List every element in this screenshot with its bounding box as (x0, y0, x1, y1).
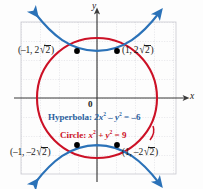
circle-mid: + y (96, 130, 110, 140)
hyperbola-lhs-a: 2x (94, 112, 103, 122)
hyperbola-equation: Hyperbola: 2x2 – y2 = –6 (48, 113, 140, 122)
radical-bottom-right: √2 (143, 147, 155, 158)
point-label-top-left: (–1, 2√2) (18, 45, 54, 56)
radicand-tl: 2 (44, 45, 51, 56)
point-top-left (74, 48, 80, 54)
hyperbola-rhs: = –6 (122, 112, 141, 122)
radical-symbol-tl: √ (40, 44, 45, 56)
circle-rhs: = 9 (112, 130, 126, 140)
radicand-bl: 2 (41, 147, 48, 158)
radical-bottom-left: √2 (36, 147, 48, 158)
radicand-tr: 2 (144, 45, 151, 56)
point-label-bottom-left-text: (–1, –2 (10, 147, 36, 157)
point-label-bottom-right: (1, –2√2) (122, 147, 158, 158)
x-axis-label: x (190, 92, 194, 102)
point-label-top-right-close: ) (151, 45, 154, 55)
point-label-bottom-right-text: (1, –2 (122, 147, 143, 157)
point-top-right (114, 48, 120, 54)
point-label-top-left-close: ) (51, 45, 54, 55)
radical-symbol-bl: √ (37, 146, 42, 158)
point-label-bottom-right-close: ) (155, 147, 158, 157)
origin-label: 0 (88, 100, 92, 109)
point-label-top-right-text: (1, 2 (122, 45, 138, 55)
radical-top-right: √2 (138, 45, 150, 56)
circle-equation: Circle: x2 + y2 = 9 (60, 131, 126, 140)
hyperbola-equation-name: Hyperbola: (48, 112, 94, 122)
point-bottom-left (74, 142, 80, 148)
point-label-bottom-left-close: ) (48, 147, 51, 157)
point-bottom-right (114, 142, 120, 148)
y-axis-label: y (92, 2, 96, 12)
point-label-top-left-text: (–1, 2 (18, 45, 39, 55)
radical-top-left: √2 (39, 45, 51, 56)
graph-figure: y x 0 (–1, 2√2) (1, 2√2) (–1, –2√2) (1, … (0, 0, 203, 189)
radicand-br: 2 (148, 147, 155, 158)
hyperbola-mid: – y (106, 112, 119, 122)
point-label-bottom-left: (–1, –2√2) (10, 147, 51, 158)
point-label-top-right: (1, 2√2) (122, 45, 153, 56)
radical-symbol-br: √ (144, 146, 149, 158)
graph-canvas (0, 0, 203, 189)
circle-equation-name: Circle: (60, 130, 89, 140)
radical-symbol-tr: √ (139, 44, 144, 56)
